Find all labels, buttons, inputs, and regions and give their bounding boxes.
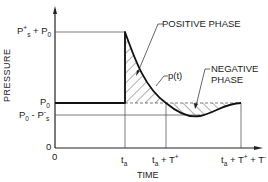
y-tick-negative-peak: P0 - P-s (19, 110, 49, 120)
positive-phase-leader (138, 24, 163, 72)
curve-leader (156, 76, 168, 86)
negative-phase-leader (196, 69, 210, 106)
curve-label: p(t) (168, 71, 182, 81)
x-axis-label: TIME (137, 170, 159, 180)
y-axis-arrow-icon (53, 6, 57, 14)
positive-phase-label: POSITIVE PHASE (162, 19, 241, 29)
x-tick-ta: ta (121, 155, 127, 165)
y-axis-label: PRESSURE (2, 48, 12, 102)
y-tick-ambient: P0 (40, 97, 50, 107)
negative-phase-label-line2: PHASE (211, 75, 243, 85)
y-tick-peak: P+s + P0 (17, 26, 51, 36)
x-tick-ta-plus-T: ta + T+ (152, 155, 179, 165)
x-axis-arrow-icon (254, 146, 263, 150)
x-tick-zero: 0 (52, 152, 57, 162)
negative-phase-label-line1: NEGATIVE (211, 64, 258, 74)
x-tick-ta-plus-T-plus-T-minus: ta + T+ + T- (221, 155, 266, 165)
y-tick-zero: 0 (46, 142, 51, 152)
